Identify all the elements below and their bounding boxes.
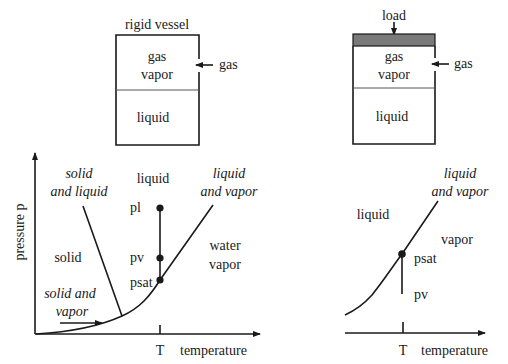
load-label: load <box>382 8 406 23</box>
vessel-liquid-label: liquid <box>376 109 409 124</box>
vessel-gas-label: gas <box>385 49 404 64</box>
region-solid: solid <box>54 250 81 265</box>
point-pv <box>156 254 163 261</box>
region-solid-vapor-2: vapor <box>56 304 89 319</box>
vessel-liquid-label: liquid <box>137 110 170 125</box>
region-liquid: liquid <box>137 171 170 186</box>
psat-label: psat <box>130 275 153 290</box>
region-liquid: liquid <box>357 207 390 222</box>
y-axis-label: pressure p <box>12 203 27 260</box>
region-liquid-vapor-2: and vapor <box>431 184 489 199</box>
vessel-vapor-label: vapor <box>141 67 173 82</box>
x-axis-label: temperature <box>421 343 488 358</box>
pv-label: pv <box>414 287 428 302</box>
psat-label: psat <box>414 251 437 266</box>
region-solid-liquid-1: solid <box>65 166 93 181</box>
region-solid-vapor-1: solid and <box>44 286 97 301</box>
loaded-vessel: load gas vapor liquid gas <box>353 8 473 144</box>
rigid-vessel: rigid vessel gas vapor liquid gas <box>116 17 238 145</box>
vessel-gas-label: gas <box>148 49 167 64</box>
x-tick-label: T <box>399 343 408 358</box>
vapor-pressure-diagram: T temperature psat pv liquid and vapor l… <box>345 166 489 358</box>
gas-inlet-label: gas <box>454 56 473 71</box>
region-water-vapor-2: vapor <box>209 257 241 272</box>
point-psat <box>156 276 163 283</box>
region-solid-liquid-2: and liquid <box>50 184 108 199</box>
point-psat <box>398 250 406 258</box>
x-axis-label: temperature <box>180 343 247 358</box>
region-vapor: vapor <box>441 232 473 247</box>
region-liquid-vapor-2: and vapor <box>200 184 258 199</box>
region-liquid-vapor-1: liquid <box>213 166 247 181</box>
pl-label: pl <box>130 200 141 215</box>
vessel-vapor-label: vapor <box>378 67 410 82</box>
water-phase-diagram: pressure p T temperature pl pv psat soli… <box>12 153 260 358</box>
gas-inlet-label: gas <box>219 57 238 72</box>
rigid-vessel-title: rigid vessel <box>125 17 189 32</box>
piston <box>353 34 435 46</box>
pv-label: pv <box>130 250 144 265</box>
phase-diagram-figure: rigid vessel gas vapor liquid gas load g… <box>0 0 508 364</box>
point-pl <box>156 204 163 211</box>
x-tick-label: T <box>156 343 165 358</box>
region-water-vapor-1: water <box>209 238 240 253</box>
region-liquid-vapor-1: liquid <box>444 166 478 181</box>
